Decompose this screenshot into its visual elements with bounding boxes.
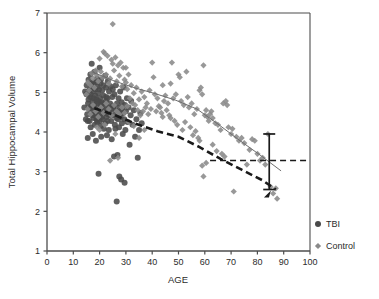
data-point [127, 142, 133, 148]
x-tick-label: 50 [173, 257, 183, 267]
x-axis-title: AGE [168, 274, 188, 285]
data-point [98, 134, 104, 140]
chart-figure: 1234567 0102030405060708090100 TBIContro… [0, 0, 379, 299]
data-point [109, 136, 115, 142]
y-tick-label: 4 [35, 127, 40, 137]
figure-background [0, 0, 379, 299]
x-tick-label: 70 [226, 257, 236, 267]
y-tick-label: 2 [35, 207, 40, 217]
data-point [91, 95, 97, 101]
data-point [85, 118, 91, 124]
x-tick-label: 60 [200, 257, 210, 267]
data-point [135, 155, 141, 161]
y-axis-title: Total Hippocampal Volume [6, 76, 17, 188]
data-point [133, 116, 139, 122]
data-point [106, 127, 112, 133]
data-point [103, 94, 109, 100]
x-tick-label: 40 [147, 257, 157, 267]
data-point [104, 132, 110, 138]
legend-label-control: Control [326, 241, 355, 251]
legend-marker-tbi [315, 221, 321, 227]
y-tick-label: 6 [35, 48, 40, 58]
x-tick-label: 0 [44, 257, 49, 267]
x-tick-label: 90 [279, 257, 289, 267]
data-point [85, 135, 91, 141]
data-point [114, 198, 120, 204]
data-point [128, 112, 134, 118]
y-tick-label: 3 [35, 167, 40, 177]
y-tick-label: 1 [35, 246, 40, 256]
data-point [96, 86, 102, 92]
x-tick-label: 10 [68, 257, 78, 267]
data-point [96, 171, 102, 177]
data-point [90, 131, 96, 137]
data-point [136, 127, 142, 133]
y-tick-label: 5 [35, 88, 40, 98]
y-tick-label: 7 [35, 8, 40, 18]
x-tick-label: 30 [121, 257, 131, 267]
data-point [93, 138, 99, 144]
x-tick-label: 100 [302, 257, 317, 267]
x-tick-label: 80 [252, 257, 262, 267]
data-point [122, 180, 128, 186]
x-tick-label: 20 [95, 257, 105, 267]
legend-label-tbi: TBI [326, 219, 340, 229]
scatter-plot: 1234567 0102030405060708090100 TBIContro… [0, 0, 379, 299]
data-point [89, 61, 95, 67]
data-point [122, 127, 128, 133]
